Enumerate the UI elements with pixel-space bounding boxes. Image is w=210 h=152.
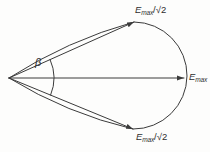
field-suffix: /√2 [153,4,166,15]
field-suffix: /√2 [154,131,167,142]
lower-half-power-label: Emax/√2 [136,132,167,144]
upper-half-power-label: Emax/√2 [135,5,166,17]
upper-half-power-arrow [9,22,134,78]
field-subscript: max [195,76,207,83]
lower-half-power-arrow [9,78,133,129]
radiation-pattern-figure: β Emax/√2 Emax Emax/√2 [0,0,210,152]
beta-angle-arc [50,60,54,96]
radiation-pattern-diagram [0,0,210,152]
emax-label: Emax [189,72,207,84]
beta-angle-label: β [35,57,41,68]
field-subscript: max [142,136,154,143]
field-subscript: max [141,9,153,16]
